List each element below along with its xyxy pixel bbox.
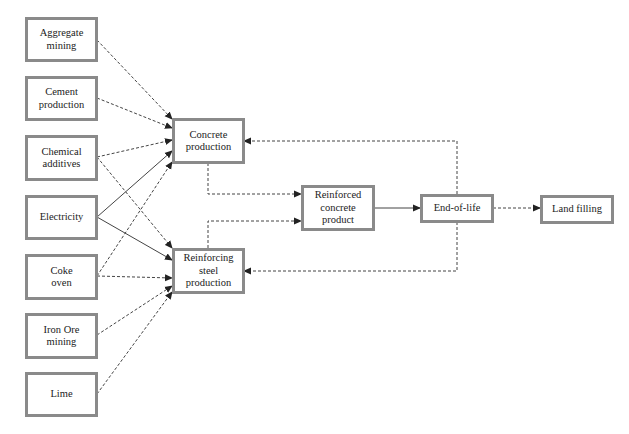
node-electricity: Electricity: [25, 195, 98, 240]
node-label: End-of-life: [434, 202, 481, 215]
node-label: Chemical additives: [30, 146, 93, 171]
node-end-of-life: End-of-life: [420, 194, 494, 223]
node-cement-production: Cement production: [25, 76, 98, 121]
edge-coke-to-concrete: [97, 162, 172, 276]
node-coke-oven: Coke oven: [25, 254, 98, 300]
node-label: Reinforcing steel production: [179, 252, 239, 290]
edge-steel-to-rcp: [208, 221, 301, 248]
edge-lime-to-steel: [97, 292, 172, 394]
node-label: Cement production: [30, 86, 93, 111]
edge-ironore-to-steel: [97, 286, 172, 335]
node-label: Lime: [50, 388, 72, 401]
node-label: Concrete production: [177, 129, 240, 154]
edge-aggregate-to-concrete: [97, 40, 172, 119]
edge-electricity-to-steel: [97, 217, 172, 260]
node-reinforced-concrete-product: Reinforced concrete product: [301, 185, 375, 231]
node-label: Electricity: [40, 211, 84, 224]
node-label: Aggregate mining: [30, 27, 93, 52]
edge-coke-to-steel: [97, 276, 172, 278]
node-label: Iron Ore mining: [37, 324, 87, 349]
node-chemical-additives: Chemical additives: [25, 135, 98, 181]
node-label: Reinforced concrete product: [309, 189, 367, 227]
node-aggregate-mining: Aggregate mining: [25, 17, 98, 62]
edge-cement-to-concrete: [97, 98, 172, 128]
node-label: Land filling: [552, 203, 602, 216]
edge-chemical-to-steel: [97, 157, 172, 248]
node-label: Coke oven: [42, 265, 82, 290]
node-iron-ore-mining: Iron Ore mining: [25, 313, 98, 359]
node-lime: Lime: [25, 372, 98, 417]
node-land-filling: Land filling: [540, 195, 614, 224]
edge-chemical-to-concrete: [97, 140, 172, 157]
node-reinforcing-steel-production: Reinforcing steel production: [172, 248, 245, 294]
edge-electricity-to-concrete: [97, 151, 172, 217]
edge-concrete-to-rcp: [208, 163, 301, 194]
node-concrete-production: Concrete production: [172, 118, 245, 164]
